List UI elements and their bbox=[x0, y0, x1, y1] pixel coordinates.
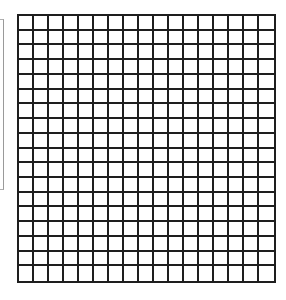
grid-cell bbox=[109, 237, 124, 252]
grid-cell bbox=[229, 16, 244, 31]
grid-cell bbox=[259, 252, 274, 267]
grid-cell bbox=[79, 75, 94, 90]
grid-cell bbox=[244, 31, 259, 46]
grid-cell bbox=[19, 31, 34, 46]
grid-cell bbox=[109, 45, 124, 60]
grid-cell bbox=[64, 222, 79, 237]
grid-cell bbox=[154, 222, 169, 237]
grid-cell bbox=[94, 104, 109, 119]
grid-cell bbox=[79, 119, 94, 134]
grid-cell bbox=[79, 252, 94, 267]
grid-cell bbox=[169, 163, 184, 178]
grid-cell bbox=[109, 60, 124, 75]
grid-cell bbox=[214, 90, 229, 105]
grid-cell bbox=[124, 16, 139, 31]
grid-cell bbox=[109, 207, 124, 222]
grid-cell bbox=[184, 178, 199, 193]
grid-cell bbox=[244, 193, 259, 208]
grid-cell bbox=[184, 119, 199, 134]
grid-cell bbox=[169, 266, 184, 281]
grid-cell bbox=[244, 16, 259, 31]
grid-cell bbox=[259, 31, 274, 46]
grid-cell bbox=[94, 237, 109, 252]
grid-cell bbox=[34, 16, 49, 31]
grid-cell bbox=[184, 252, 199, 267]
grid-cell bbox=[49, 119, 64, 134]
grid-cell bbox=[169, 119, 184, 134]
grid-cell bbox=[139, 193, 154, 208]
grid-cell bbox=[124, 45, 139, 60]
grid-cell bbox=[184, 31, 199, 46]
grid-cell bbox=[244, 90, 259, 105]
grid-cell bbox=[139, 163, 154, 178]
grid-cell bbox=[139, 119, 154, 134]
grid-cell bbox=[169, 149, 184, 164]
grid-cell bbox=[19, 252, 34, 267]
grid-cell bbox=[244, 252, 259, 267]
grid-cell bbox=[64, 207, 79, 222]
grid-cell bbox=[34, 178, 49, 193]
grid-cell bbox=[244, 237, 259, 252]
grid-cell bbox=[199, 222, 214, 237]
grid-cell bbox=[79, 45, 94, 60]
left-panel-edge bbox=[0, 19, 4, 190]
grid-cell bbox=[154, 163, 169, 178]
grid-cell bbox=[64, 60, 79, 75]
grid-cell bbox=[184, 163, 199, 178]
grid-cell bbox=[19, 163, 34, 178]
grid-cell bbox=[124, 207, 139, 222]
grid-cell bbox=[154, 207, 169, 222]
grid-cell bbox=[19, 75, 34, 90]
grid-cell bbox=[154, 90, 169, 105]
grid-cell bbox=[94, 31, 109, 46]
grid-cell bbox=[79, 266, 94, 281]
grid-cell bbox=[79, 104, 94, 119]
grid-cell bbox=[244, 119, 259, 134]
grid-cell bbox=[49, 134, 64, 149]
grid-cell bbox=[184, 60, 199, 75]
grid-cell bbox=[229, 31, 244, 46]
grid-cell bbox=[214, 119, 229, 134]
grid-cell bbox=[199, 119, 214, 134]
grid-cell bbox=[214, 237, 229, 252]
grid-cell bbox=[139, 237, 154, 252]
grid-cell bbox=[154, 16, 169, 31]
grid-cell bbox=[124, 163, 139, 178]
grid-cell bbox=[124, 149, 139, 164]
grid-cell bbox=[34, 252, 49, 267]
grid-cell bbox=[79, 134, 94, 149]
grid-cell bbox=[154, 60, 169, 75]
grid-cell bbox=[139, 266, 154, 281]
grid-cell bbox=[79, 222, 94, 237]
grid-cell bbox=[169, 31, 184, 46]
grid-cell bbox=[34, 31, 49, 46]
grid-cell bbox=[124, 178, 139, 193]
grid-cell bbox=[229, 75, 244, 90]
grid-cell bbox=[169, 222, 184, 237]
grid-cell bbox=[49, 193, 64, 208]
grid-cell bbox=[169, 178, 184, 193]
grid-cell bbox=[214, 178, 229, 193]
grid-cell bbox=[49, 16, 64, 31]
grid-cell bbox=[64, 134, 79, 149]
grid-cell bbox=[169, 134, 184, 149]
grid-cell bbox=[169, 16, 184, 31]
grid-cell bbox=[19, 237, 34, 252]
grid-cell bbox=[79, 60, 94, 75]
grid-cell bbox=[139, 16, 154, 31]
grid-cell bbox=[64, 163, 79, 178]
grid-cell bbox=[94, 252, 109, 267]
grid-cell bbox=[184, 90, 199, 105]
grid-cell bbox=[109, 252, 124, 267]
grid-cell bbox=[184, 237, 199, 252]
grid-cell bbox=[184, 149, 199, 164]
grid-cell bbox=[34, 104, 49, 119]
grid-cell bbox=[259, 16, 274, 31]
grid-cell bbox=[94, 163, 109, 178]
grid-cell bbox=[19, 90, 34, 105]
grid-cell bbox=[139, 90, 154, 105]
grid-cell bbox=[79, 237, 94, 252]
grid-cell bbox=[154, 31, 169, 46]
grid-cell bbox=[109, 104, 124, 119]
grid-cell bbox=[259, 222, 274, 237]
